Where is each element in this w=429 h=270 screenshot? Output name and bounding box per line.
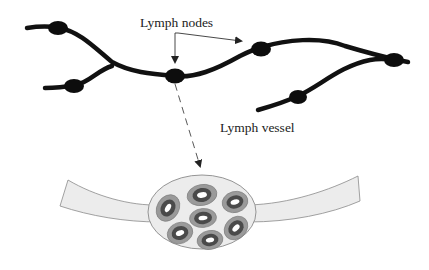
vessel-branch-upper-left: [27, 27, 175, 77]
lymph-vessel-network: [27, 27, 408, 111]
zoom-dashed-arrow: [175, 84, 200, 166]
lymph-node: [48, 21, 68, 35]
lymph-node: [289, 90, 307, 104]
enlarged-lymph-node: [60, 175, 360, 252]
lymph-node: [165, 69, 185, 84]
arrow-to-right-node: [175, 33, 241, 41]
lymph-node: [64, 79, 84, 93]
lymph-vessel-label: Lymph vessel: [220, 120, 295, 135]
lymph-node: [384, 53, 404, 67]
vessel-branch-lower-right: [258, 59, 396, 110]
label-pointer-arrows: [175, 33, 241, 62]
lymph-diagram: Lymph nodes Lymph vessel: [0, 0, 429, 270]
lymph-nodes-label: Lymph nodes: [140, 15, 213, 30]
lymph-node: [251, 42, 271, 57]
